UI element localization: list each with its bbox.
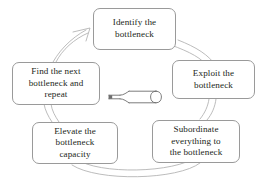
node-exploit-the-bottleneck[interactable]: Exploit the bottleneck: [172, 60, 255, 99]
bottle-cap-icon: [109, 95, 112, 99]
node-subordinate-everything[interactable]: Subordinate everything to the bottleneck: [152, 120, 240, 163]
node-elevate-label: Elevate the bottleneck capacity: [54, 126, 96, 161]
node-identify-label: Identify the bottleneck: [113, 17, 156, 40]
connector-elevate-to-find: [44, 104, 59, 122]
node-identify-the-bottleneck[interactable]: Identify the bottleneck: [93, 8, 176, 50]
node-elevate-the-bottleneck-capacity[interactable]: Elevate the bottleneck capacity: [32, 122, 118, 164]
connector-exploit-to-subordinate: [200, 99, 216, 120]
cycle-diagram: Identify the bottleneck Exploit the bott…: [0, 0, 268, 189]
bottle-icon: [107, 85, 165, 109]
node-subordinate-label: Subordinate everything to the bottleneck: [170, 124, 223, 159]
node-exploit-label: Exploit the bottleneck: [193, 68, 234, 91]
node-find-the-next-bottleneck[interactable]: Find the next bottleneck and repeat: [12, 62, 100, 105]
node-find-label: Find the next bottleneck and repeat: [29, 66, 84, 101]
arrowhead-icon: [73, 28, 90, 41]
